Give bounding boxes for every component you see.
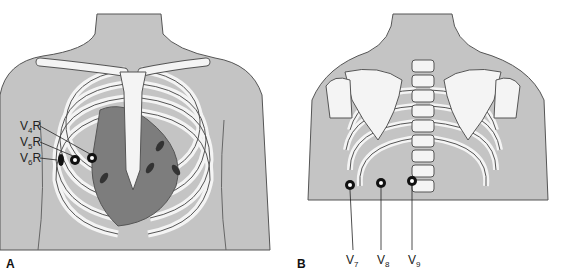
diagram-canvas: V4R V5R V6R A — [0, 0, 562, 276]
panel-b-label: B — [297, 257, 306, 271]
label-v9: V9 — [408, 253, 421, 269]
panel-a-anterior-torso: V4R V5R V6R A — [0, 14, 270, 271]
spine — [412, 60, 434, 192]
panel-a-label: A — [6, 257, 15, 271]
label-v7: V7 — [346, 253, 359, 269]
electrode-v6r — [58, 154, 64, 166]
panel-b-posterior-torso: V7 V8 V9 B — [297, 14, 548, 271]
label-v8: V8 — [377, 253, 390, 269]
